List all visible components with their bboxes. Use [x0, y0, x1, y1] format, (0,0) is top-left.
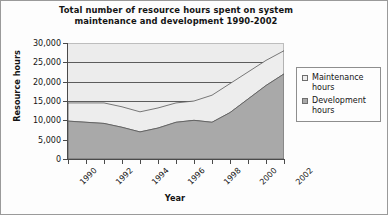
x-tick-label: 2002 — [294, 166, 315, 187]
x-tick — [176, 159, 177, 164]
area-series-group — [68, 43, 284, 159]
x-tick — [158, 159, 159, 164]
x-axis-title: Year — [67, 193, 283, 203]
x-tick-label: 1992 — [114, 166, 135, 187]
y-tick — [63, 101, 68, 102]
x-tick — [140, 159, 141, 164]
y-tick — [63, 120, 68, 121]
x-tick — [248, 159, 249, 164]
legend-item-maintenance-hours: Maintenance hours — [302, 73, 376, 93]
legend-label-maintenance-line-2: hours — [312, 83, 335, 92]
y-tick-label: 5,000 — [38, 135, 61, 144]
x-tick — [86, 159, 87, 164]
legend-label-development-line-2: hours — [312, 106, 335, 115]
y-tick-label: 10,000 — [33, 116, 61, 125]
chart-title-line-2: maintenance and development 1990-2002 — [41, 16, 311, 27]
legend-item-development-hours: Development hours — [302, 96, 376, 116]
chart-container: Total number of resource hours spent on … — [0, 0, 388, 215]
x-tick — [122, 159, 123, 164]
x-tick — [230, 159, 231, 164]
chart-legend: Maintenance hours Development hours — [296, 67, 381, 122]
legend-swatch-maintenance-icon — [302, 75, 308, 81]
y-tick-label: 30,000 — [33, 39, 61, 48]
x-tick-label: 1990 — [78, 166, 99, 187]
x-tick-label: 2000 — [258, 166, 279, 187]
legend-label-development-line-1: Development — [312, 96, 366, 105]
y-tick — [63, 62, 68, 63]
chart-title-line-1: Total number of resource hours spent on … — [41, 5, 311, 16]
y-tick-label: 20,000 — [33, 77, 61, 86]
y-tick-label: 0 — [56, 155, 61, 164]
y-tick — [63, 82, 68, 83]
y-tick — [63, 140, 68, 141]
x-tick — [266, 159, 267, 164]
x-tick — [68, 159, 69, 164]
legend-swatch-development-icon — [302, 98, 308, 104]
x-tick — [284, 159, 285, 164]
legend-label-development-hours: Development hours — [312, 96, 366, 116]
x-tick-label: 1998 — [222, 166, 243, 187]
y-tick-label: 25,000 — [33, 58, 61, 67]
legend-label-maintenance-hours: Maintenance hours — [312, 73, 364, 93]
plot-area: 05,00010,00015,00020,00025,00030,000 199… — [67, 43, 284, 160]
x-tick-label: 1996 — [186, 166, 207, 187]
x-tick-label: 1994 — [150, 166, 171, 187]
x-tick — [104, 159, 105, 164]
chart-title: Total number of resource hours spent on … — [41, 5, 311, 27]
y-tick-label: 15,000 — [33, 97, 61, 106]
y-axis-title: Resource hours — [12, 46, 22, 126]
legend-label-maintenance-line-1: Maintenance — [312, 73, 364, 82]
y-tick — [63, 43, 68, 44]
x-tick — [194, 159, 195, 164]
x-tick — [212, 159, 213, 164]
